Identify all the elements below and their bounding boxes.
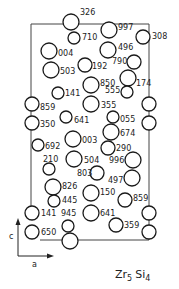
atom-circle (121, 86, 133, 98)
atom-circle (101, 141, 115, 155)
atom-circle (43, 62, 59, 78)
atom-height-label: 996 (109, 156, 124, 165)
atom-height-label: 497 (108, 176, 123, 185)
atom: 496 (100, 42, 133, 58)
atom-circle (142, 116, 156, 130)
atom-height-label: 641 (74, 116, 89, 125)
atom-height-label: 355 (101, 101, 116, 110)
atom-height-label: 826 (62, 182, 77, 191)
atom: 141 (25, 206, 56, 220)
atom-height-label: 174 (136, 79, 151, 88)
atom-circle (66, 151, 82, 167)
atom-height-label: 674 (120, 129, 135, 138)
atom: 859 (118, 193, 148, 207)
atom: 055 (107, 111, 135, 124)
atom: 150 (83, 185, 115, 201)
atom: 710 (68, 32, 97, 44)
atom-circle (60, 111, 72, 123)
atom-height-label: 290 (116, 144, 131, 153)
atom-height-label: 350 (40, 120, 55, 129)
atom-circle (25, 97, 39, 111)
atom-circle (127, 55, 141, 69)
atom-circle (101, 22, 117, 38)
atom (142, 116, 156, 130)
atom-height-label: 192 (92, 62, 107, 71)
atom-circle (100, 42, 116, 58)
atom: 826 (45, 179, 77, 195)
atom-circle (52, 87, 64, 99)
atom-height-label: 150 (100, 188, 115, 197)
atom: 945 (61, 209, 76, 232)
atom-circle (142, 225, 156, 239)
atom: 803 (77, 166, 104, 180)
atom-circle (25, 206, 39, 220)
atom-height-label: 445 (62, 196, 77, 205)
atom: 192 (78, 58, 107, 72)
atom-circle (43, 163, 55, 175)
atom-circle (65, 131, 81, 147)
atom-circle (63, 14, 79, 30)
atom: 674 (103, 124, 135, 140)
atom-height-label: 004 (58, 49, 73, 58)
atom-circle (25, 225, 39, 239)
atom: 504 (66, 151, 99, 167)
atom-circle (32, 139, 44, 151)
atom-height-label: 055 (120, 115, 135, 124)
atom-circle (118, 193, 132, 207)
c-axis-label: c (9, 232, 13, 241)
atom-height-label: 359 (124, 221, 139, 230)
atom: 308 (136, 30, 167, 44)
atom-circle (124, 170, 140, 186)
atom: 350 (25, 116, 55, 130)
atom: 641 (83, 205, 115, 221)
atom-circle (83, 96, 99, 112)
atom-circle (45, 179, 61, 195)
formula-zr-sub: 5 (127, 274, 132, 283)
atom-height-label: 790 (112, 57, 127, 66)
atom-height-label: 859 (40, 103, 55, 112)
atom: 497 (108, 170, 140, 186)
atom-height-label: 859 (133, 194, 148, 203)
atom-height-label: 555 (105, 86, 120, 95)
atom-circle (48, 195, 60, 207)
atom-circle (109, 218, 123, 232)
atom-height-label: 997 (118, 23, 133, 32)
atom: 290 (101, 141, 131, 155)
atom-height-label: 003 (82, 136, 97, 145)
atom: 003 (65, 131, 97, 147)
atom: 174 (120, 70, 151, 88)
atom-circle (83, 185, 99, 201)
formula-label: Zr5Si4 (115, 268, 150, 283)
atom (142, 225, 156, 239)
atom-height-label: 692 (45, 142, 60, 151)
atom: 790 (112, 55, 141, 69)
atom-height-label: 210 (43, 155, 58, 164)
atom: 326 (63, 8, 95, 30)
atom: 503 (43, 62, 75, 78)
atom: 355 (83, 96, 116, 112)
atom: 692 (32, 139, 60, 151)
atom-circle (142, 97, 156, 111)
atom-circle (125, 152, 141, 168)
atom-layer: 3267109973084960045031927901748505551418… (25, 8, 167, 249)
atom-circle (41, 43, 57, 59)
crystal-structure-diagram: 3267109973084960045031927901748505551418… (0, 0, 179, 289)
atom-circle (107, 111, 119, 123)
atom-circle (83, 77, 99, 93)
atom-circle (120, 70, 136, 86)
atom: 859 (25, 97, 55, 112)
atom-circle (136, 30, 150, 44)
a-axis-arrow-icon (47, 254, 54, 259)
atom: 210 (43, 155, 58, 175)
atom: 650 (25, 225, 56, 239)
atom: 641 (60, 111, 89, 125)
atom-height-label: 496 (118, 43, 133, 52)
atom-height-label: 710 (82, 33, 97, 42)
atom-height-label: 503 (60, 67, 75, 76)
atom-circle (25, 116, 39, 130)
atom-height-label: 641 (100, 209, 115, 218)
atom: 141 (52, 87, 80, 99)
atom-circle (103, 124, 119, 140)
atom-circle (78, 58, 92, 72)
atom: 359 (109, 218, 139, 232)
